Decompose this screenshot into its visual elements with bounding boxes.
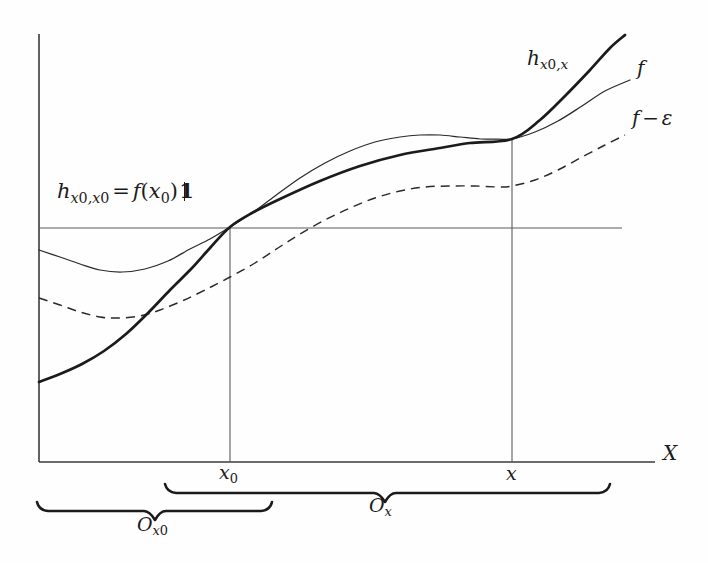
feps-minus: −: [639, 106, 661, 130]
tick-label-x-zero: x0: [219, 463, 238, 486]
eq-paren-open: (: [141, 179, 149, 203]
x-axis-label: X: [663, 443, 677, 463]
curve-label-h: hx0,x: [527, 48, 568, 72]
curve-label-f: f: [637, 58, 644, 78]
feps-epsilon: ε: [662, 106, 673, 130]
eq-f: f: [133, 179, 141, 203]
ox0-base: O: [137, 513, 153, 535]
axis-x-text: X: [663, 441, 677, 465]
tick-x-base: x: [506, 462, 517, 484]
eq-equals: =: [109, 179, 132, 203]
eq-paren-close: ): [170, 179, 178, 203]
figure-graphics: [0, 0, 708, 563]
curve-label-f-minus-epsilon: f−ε: [632, 108, 673, 128]
ox-base: O: [369, 494, 385, 516]
eq-h-sub1: x0,x0: [71, 190, 110, 206]
curve-f-minus-epsilon: [39, 135, 625, 318]
eq-arg: x: [149, 179, 161, 203]
ox0-sub: x0: [153, 523, 169, 538]
brace-label-o-x: Ox: [369, 496, 392, 519]
curve-h-x0-x: [39, 35, 625, 382]
tick-x0-sub: 0: [230, 471, 238, 486]
eq-arg-sub: 0: [161, 190, 170, 206]
figure-canvas: hx0,x0=f(x0)1 hx0,x f f−ε X x0 x Ox Ox0: [0, 0, 708, 563]
horizontal-line-equation-label: hx0,x0=f(x0)1: [57, 180, 193, 205]
eq-h: h: [57, 179, 71, 203]
h-subscript: x0,x: [540, 56, 568, 72]
ox-sub: x: [385, 504, 392, 519]
f-base: f: [637, 56, 644, 80]
brace-label-o-x-zero: Ox0: [137, 515, 168, 538]
tick-x0-base: x: [219, 461, 230, 483]
tick-label-x: x: [506, 464, 517, 483]
eq-blackboard-one: 1: [178, 180, 193, 201]
h-base: h: [527, 46, 540, 70]
